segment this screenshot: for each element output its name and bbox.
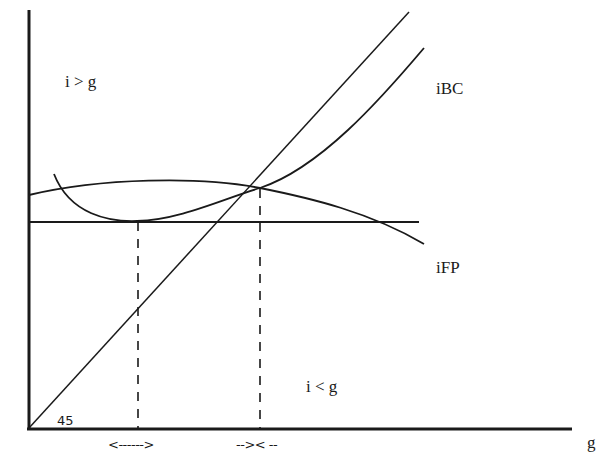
curve-label-ifp: iFP [436, 259, 460, 276]
angle-label-45: 45 [57, 414, 74, 427]
curve-label-ibc: iBC [436, 80, 463, 97]
x-axis-label-g: g [587, 434, 596, 451]
ibc-curve [54, 48, 424, 221]
interval-marker-left: <------> [108, 438, 154, 451]
interval-marker-right: -->< -- [236, 438, 277, 451]
region-label-i-greater-g: i > g [65, 73, 96, 90]
region-label-i-less-g: i < g [306, 378, 337, 395]
diagram-canvas [0, 0, 602, 468]
